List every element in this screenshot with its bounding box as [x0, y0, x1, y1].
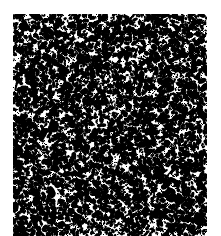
image-canvas [0, 0, 221, 236]
speckle-noise-field [13, 14, 207, 236]
speckle-noise-canvas [13, 14, 207, 236]
